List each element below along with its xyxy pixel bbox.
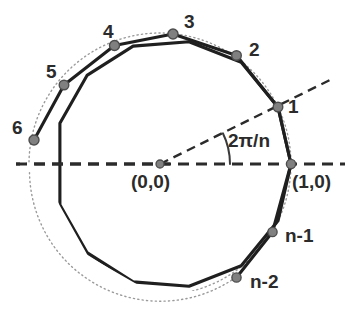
vertex-label-2: 2: [249, 40, 260, 59]
vertex-marker-origin: [156, 160, 164, 168]
polygon-figure: 1 2 3 4 5 6 n-1 n-2 (0,0) (1,0) 2π/n: [0, 0, 355, 314]
vertex-marker-4: [110, 41, 120, 51]
vertex-marker-1: [273, 102, 283, 112]
vertex-marker-unit: [286, 159, 295, 168]
figure-canvas: [0, 0, 355, 314]
angle-ray: [160, 79, 332, 164]
vertex-label-n-2: n-2: [250, 272, 279, 291]
vertex-marker-2: [232, 51, 242, 61]
vertex-label-6: 6: [12, 118, 23, 137]
vertex-label-1: 1: [288, 97, 299, 116]
vertex-marker-3: [168, 29, 178, 39]
vertex-label-n-1: n-1: [285, 226, 314, 245]
vertex-marker-6: [29, 135, 39, 145]
unit-point-label: (1,0): [292, 172, 331, 191]
origin-label: (0,0): [131, 172, 170, 191]
vertex-marker-n-1: [268, 227, 277, 236]
vertex-label-4: 4: [103, 22, 114, 41]
vertex-marker-5: [59, 80, 69, 90]
vertex-label-5: 5: [46, 62, 57, 81]
vertex-marker-n-2: [232, 273, 241, 282]
vertex-label-3: 3: [184, 12, 195, 31]
central-angle-label: 2π/n: [228, 131, 270, 150]
